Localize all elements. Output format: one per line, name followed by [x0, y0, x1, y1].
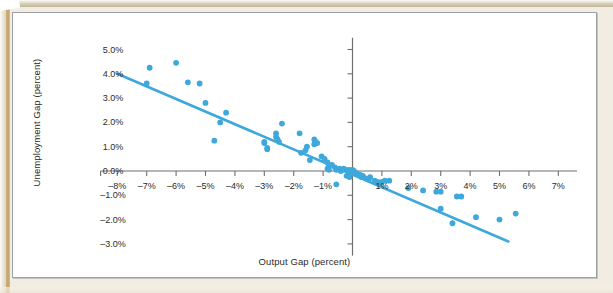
y-axis-title: Unemployment Gap (percent) [31, 48, 42, 198]
y-axis-tick-label: 0.0% [103, 166, 124, 176]
data-point [497, 217, 503, 223]
scatter-plot: Unemployment Gap (percent) Output Gap (p… [13, 13, 596, 277]
x-axis-tick-label: –7% [138, 181, 156, 191]
data-point [311, 141, 317, 147]
data-point [326, 167, 332, 173]
y-axis-tick-label: 2.0% [103, 117, 124, 127]
figure-frame: Unemployment Gap (percent) Output Gap (p… [12, 12, 597, 278]
scan-edge-bottom [0, 287, 613, 293]
data-point [347, 174, 353, 180]
data-point [261, 140, 267, 146]
x-axis-tick-label: 1% [375, 181, 388, 191]
data-point [307, 157, 313, 163]
scan-corner-artifact [0, 0, 20, 12]
x-axis-tick-label: –6% [167, 181, 185, 191]
x-axis-tick-label: –2% [285, 181, 303, 191]
x-axis-tick-label: –5% [196, 181, 214, 191]
x-axis-tick-label: 5% [493, 181, 506, 191]
data-point [203, 100, 209, 106]
data-point [297, 130, 303, 136]
chart-canvas [13, 13, 596, 277]
y-axis-tick-label: 1.0% [103, 142, 124, 152]
data-point [420, 188, 426, 194]
data-point [223, 110, 229, 116]
data-point [217, 120, 223, 126]
x-axis-title: Output Gap (percent) [13, 256, 596, 267]
y-axis-tick-label: 5.0% [103, 45, 124, 55]
scanned-page: Unemployment Gap (percent) Output Gap (p… [0, 0, 613, 293]
data-point [458, 194, 464, 200]
data-point [438, 206, 444, 212]
data-point [279, 121, 285, 127]
data-point [211, 138, 217, 144]
data-point [276, 139, 282, 145]
y-axis-tick-label: 3.0% [103, 93, 124, 103]
data-point [473, 214, 479, 220]
y-axis-tick-label: –3.0% [100, 239, 126, 249]
data-point [264, 146, 270, 152]
x-axis-tick-label: 4% [464, 181, 477, 191]
data-point [450, 220, 456, 226]
scan-edge-spine [6, 4, 10, 293]
x-axis-tick-label: 2% [405, 181, 418, 191]
data-point [333, 181, 339, 187]
data-point [197, 81, 203, 87]
y-axis-tick-label: 4.0% [103, 69, 124, 79]
y-axis-tick-label: –2.0% [100, 215, 126, 225]
x-axis-tick-label: –1% [314, 181, 332, 191]
x-axis-tick-label: 7% [552, 181, 565, 191]
data-point [144, 81, 150, 87]
x-axis-tick-label: 6% [522, 181, 535, 191]
data-point [147, 65, 153, 71]
data-point [185, 79, 191, 85]
x-axis-tick-label: 3% [434, 181, 447, 191]
data-point [298, 150, 304, 156]
scan-edge-top [0, 0, 613, 7]
trend-line [117, 74, 508, 242]
y-axis-tick-label: –1.0% [100, 190, 126, 200]
data-point [513, 211, 519, 217]
x-axis-tick-label: –3% [255, 181, 273, 191]
x-axis-tick-label: –4% [226, 181, 244, 191]
data-point-group [144, 60, 519, 226]
data-point [173, 60, 179, 66]
